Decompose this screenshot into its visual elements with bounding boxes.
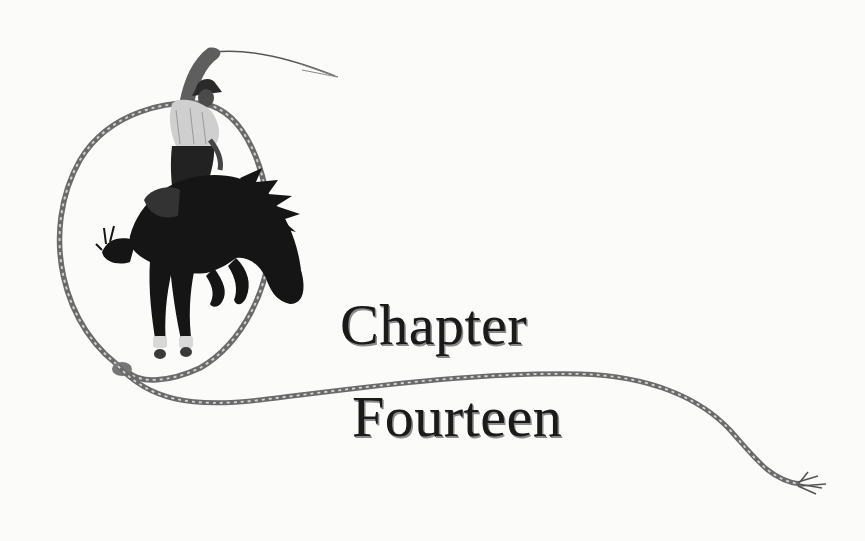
chapter-heading-line-2: Fourteen: [352, 388, 562, 446]
bucking-horse: [96, 168, 304, 359]
chapter-title-page: Chapter Fourteen: [0, 0, 865, 541]
frayed-rope-end: [798, 472, 826, 494]
bronc-rider-illustration: [0, 0, 865, 541]
chapter-heading-line-1: Chapter: [340, 296, 527, 354]
whip: [214, 51, 335, 76]
